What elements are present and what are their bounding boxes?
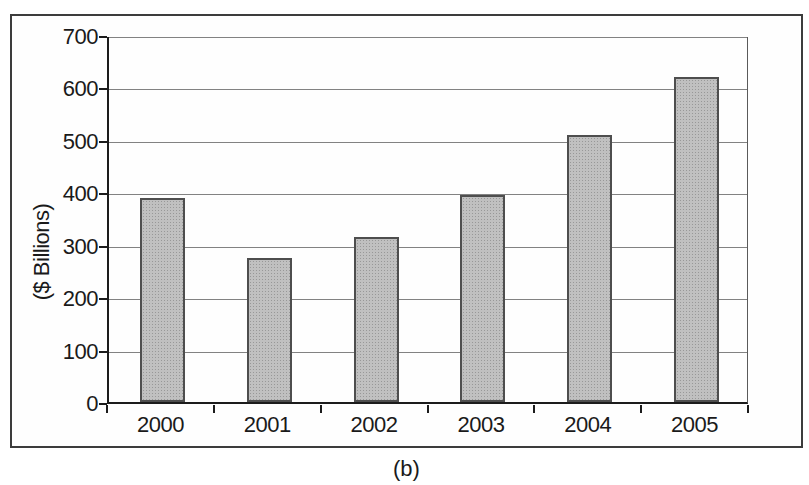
y-tick-400 bbox=[99, 193, 107, 195]
y-tick-100 bbox=[99, 351, 107, 353]
gridline-400 bbox=[109, 194, 747, 195]
figure-caption: (b) bbox=[10, 456, 803, 482]
gridline-200 bbox=[109, 299, 747, 300]
y-tick-600 bbox=[99, 88, 107, 90]
plot-area bbox=[107, 37, 748, 404]
gridline-500 bbox=[109, 142, 747, 143]
y-tick-label-400: 400 bbox=[42, 181, 98, 207]
y-tick-700 bbox=[99, 36, 107, 38]
x-tick-label-2001: 2001 bbox=[214, 412, 321, 438]
x-tick-label-2003: 2003 bbox=[428, 412, 535, 438]
y-tick-label-700: 700 bbox=[42, 24, 98, 50]
bar-2003 bbox=[460, 195, 505, 402]
y-tick-200 bbox=[99, 298, 107, 300]
y-tick-500 bbox=[99, 141, 107, 143]
bar-2004 bbox=[567, 135, 612, 402]
gridline-300 bbox=[109, 247, 747, 248]
gridline-700 bbox=[109, 37, 747, 38]
bar-2005 bbox=[674, 77, 719, 402]
y-tick-300 bbox=[99, 246, 107, 248]
chart-frame: ($ Billions) 0100200300400500600700 2000… bbox=[10, 14, 803, 448]
bar-2001 bbox=[247, 258, 292, 402]
y-tick-label-100: 100 bbox=[42, 339, 98, 365]
y-tick-label-0: 0 bbox=[42, 391, 98, 417]
x-tick-label-2000: 2000 bbox=[107, 412, 214, 438]
gridline-100 bbox=[109, 352, 747, 353]
y-tick-label-200: 200 bbox=[42, 286, 98, 312]
x-tick-label-2005: 2005 bbox=[641, 412, 748, 438]
y-tick-label-300: 300 bbox=[42, 234, 98, 260]
bar-2002 bbox=[354, 237, 399, 402]
bar-chart-figure: ($ Billions) 0100200300400500600700 2000… bbox=[0, 0, 809, 485]
bar-2000 bbox=[140, 198, 185, 402]
y-tick-label-600: 600 bbox=[42, 76, 98, 102]
x-tick-label-2002: 2002 bbox=[321, 412, 428, 438]
y-tick-label-500: 500 bbox=[42, 129, 98, 155]
gridline-600 bbox=[109, 89, 747, 90]
x-tick-label-2004: 2004 bbox=[534, 412, 641, 438]
